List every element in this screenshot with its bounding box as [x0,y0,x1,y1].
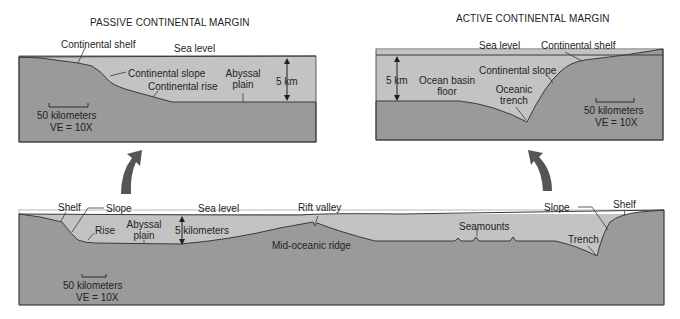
passive-rise-label: Continental rise [148,81,217,92]
profile-sea-level-label: Sea level [198,203,239,214]
profile-rift-valley-label: Rift valley [298,202,341,213]
active-ve-label: VE = 10X [595,117,638,128]
active-shelf-label: Continental shelf [541,40,616,51]
profile-rise-label: Rise [95,225,115,236]
profile-depth-label: 5 kilometers [175,225,229,236]
passive-abyssal-label-1: Abyssal [224,68,262,79]
profile-abyssal-label-2: plain [124,230,164,241]
passive-scale-label: 50 kilometers [37,110,96,121]
profile-scale-label: 50 kilometers [63,280,122,291]
active-sea-level-label: Sea level [479,40,520,51]
profile-shelf-left-label: Shelf [58,202,81,213]
active-slope-label: Continental slope [479,65,556,76]
profile-ridge-label: Mid-oceanic ridge [272,240,351,251]
profile-shelf-right-label: Shelf [613,199,636,210]
profile-trench-label: Trench [568,234,599,245]
active-scale-label: 50 kilometers [584,105,643,116]
passive-shelf-label: Continental shelf [61,39,136,50]
profile-slope-right-label: Slope [544,202,570,213]
profile-slope-left-label: Slope [106,203,132,214]
active-depth-label: 5 km [386,75,408,86]
curved-arrow-right-icon [528,150,552,191]
active-basin-label-1: Ocean basin [417,75,477,86]
passive-ve-label: VE = 10X [50,122,93,133]
passive-title: PASSIVE CONTINENTAL MARGIN [90,17,250,28]
active-trench-label-2: trench [492,95,536,106]
curved-arrow-left-icon [121,150,142,194]
profile-ve-label: VE = 10X [76,292,119,303]
active-title: ACTIVE CONTINENTAL MARGIN [456,13,610,24]
passive-sea-level-label: Sea level [174,43,215,54]
active-basin-label-2: floor [417,86,477,97]
profile-seamounts-label: Seamounts [459,221,510,232]
profile-abyssal-label-1: Abyssal [124,219,164,230]
passive-abyssal-label-2: plain [224,79,262,90]
passive-depth-label: 5 km [276,76,298,87]
active-trench-label-1: Oceanic [492,84,536,95]
passive-slope-label: Continental slope [128,68,205,79]
